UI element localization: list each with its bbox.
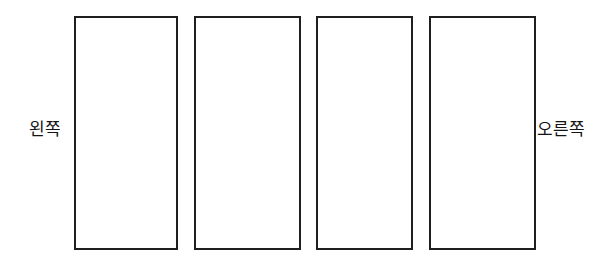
diagram-canvas: 왼쪽 오른쪽 (0, 0, 615, 257)
left-side-label: 왼쪽 (29, 121, 61, 138)
panel-rectangle-1 (74, 16, 178, 250)
right-side-label: 오른쪽 (537, 121, 586, 138)
panel-rectangle-3 (316, 16, 413, 250)
panel-rectangle-4 (429, 16, 536, 250)
panel-rectangle-2 (194, 16, 301, 250)
